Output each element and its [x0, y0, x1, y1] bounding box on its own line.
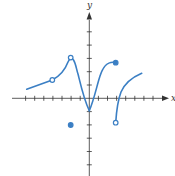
y-axis-arrow-icon	[87, 12, 92, 20]
open-point-x-neg4	[50, 78, 55, 83]
x-axis-label: x	[171, 93, 175, 103]
curves	[27, 58, 142, 122]
x-axis	[12, 96, 169, 101]
filled-point-x-neg2	[68, 123, 73, 128]
curve-left-piece	[27, 58, 90, 110]
open-point-x-neg2-peak	[68, 55, 73, 60]
y-axis-label: y	[86, 0, 93, 10]
curve-middle-piece	[89, 62, 115, 110]
function-graph: y x	[0, 0, 175, 176]
filled-point-x-3	[113, 60, 118, 65]
y-axis	[87, 12, 92, 176]
markers	[50, 55, 118, 127]
x-axis-arrow-icon	[162, 96, 169, 101]
open-point-x-3	[113, 120, 118, 125]
